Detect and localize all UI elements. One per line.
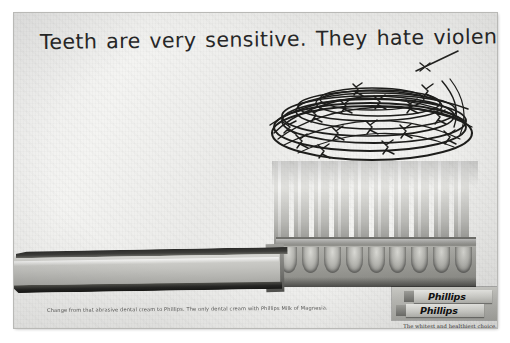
- brand-logo-block: Phillips Phillips The whitest and health…: [392, 287, 497, 328]
- stray-barb-strand: [414, 49, 470, 75]
- toothbrush-bristles: [272, 161, 478, 245]
- barbed-wire-coil: [254, 75, 484, 171]
- toothpaste-tubes-image: Phillips Phillips: [392, 287, 497, 320]
- barbed-wire-svg: [254, 75, 484, 171]
- toothpaste-tube-bottom: Phillips: [406, 304, 484, 317]
- brand-tagline: The whitest and healthiest choice.: [392, 323, 497, 328]
- bristle-sockets: [280, 247, 472, 277]
- body-copy: Change from that abrasive dental cream t…: [47, 303, 377, 314]
- photo-plate: Teeth are very sensitive. They hate viol…: [14, 13, 497, 328]
- toothbrush-handle: [14, 245, 280, 293]
- toothbrush-head: [276, 237, 476, 287]
- stray-barb-svg: [414, 49, 470, 75]
- brand-name-bottom: Phillips: [420, 305, 458, 316]
- brand-name-top: Phillips: [428, 291, 466, 302]
- tube-cap-icon: [404, 291, 414, 302]
- toothpaste-tube-top: Phillips: [414, 290, 492, 303]
- advertisement-poster: Teeth are very sensitive. They hate viol…: [0, 0, 510, 343]
- tube-cap-icon: [396, 305, 406, 316]
